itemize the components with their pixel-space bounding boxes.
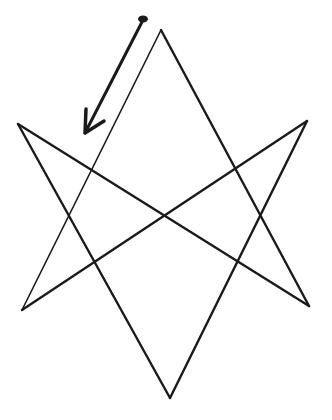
unicursal-hexagram-diagram — [0, 0, 332, 420]
hexagram-edge — [170, 121, 307, 398]
hexagram-edge — [18, 124, 309, 306]
hexagram-lines — [18, 30, 309, 398]
